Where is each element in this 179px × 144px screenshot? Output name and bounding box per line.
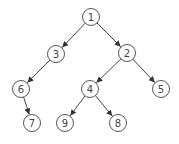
tree-node-7: 7 — [24, 115, 41, 132]
edge-1-to-2 — [97, 23, 121, 47]
edge-2-to-5 — [133, 59, 155, 82]
node-label: 4 — [87, 84, 93, 95]
tree-node-3: 3 — [48, 46, 65, 63]
node-label: 2 — [124, 48, 130, 59]
edge-6-to-7 — [24, 97, 30, 114]
edge-2-to-4 — [96, 59, 120, 83]
node-label: 7 — [29, 118, 35, 129]
tree-node-2: 2 — [119, 45, 136, 62]
edge-3-to-6 — [27, 60, 50, 83]
edge-1-to-3 — [62, 23, 85, 47]
edge-4-to-8 — [95, 96, 112, 116]
node-label: 3 — [53, 49, 59, 60]
node-label: 5 — [158, 84, 164, 95]
edges-layer — [24, 23, 155, 116]
tree-node-4: 4 — [82, 81, 99, 98]
tree-node-1: 1 — [83, 9, 100, 26]
edge-4-to-9 — [70, 96, 85, 116]
node-label: 6 — [18, 84, 24, 95]
tree-diagram: 132645798 — [0, 0, 179, 144]
tree-node-9: 9 — [57, 115, 74, 132]
tree-node-6: 6 — [13, 81, 30, 98]
nodes-layer: 132645798 — [13, 9, 170, 132]
node-label: 8 — [115, 118, 121, 129]
node-label: 9 — [62, 118, 68, 129]
tree-node-5: 5 — [153, 81, 170, 98]
node-label: 1 — [88, 12, 94, 23]
tree-node-8: 8 — [110, 115, 127, 132]
